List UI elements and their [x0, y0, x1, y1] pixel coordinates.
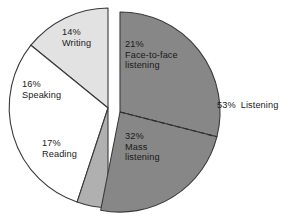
pie-label-speaking-pct: 16%: [22, 79, 61, 90]
pie-label-writing-name: Writing: [62, 38, 91, 49]
pie-label-face-to-face: 21% Face-to-face listening: [125, 39, 178, 71]
pie-label-reading-name: Reading: [42, 149, 77, 160]
pie-label-face-to-face-pct: 21%: [125, 39, 178, 50]
pie-label-reading-pct: 17%: [42, 138, 77, 149]
pie-callout-listening-name: Listening: [241, 100, 279, 110]
pie-label-mass-listening: 32% Mass listening: [125, 131, 160, 163]
pie-label-face-to-face-name2: listening: [125, 60, 178, 71]
pie-label-mass-listening-name2: listening: [125, 152, 160, 163]
pie-label-writing: 14% Writing: [62, 27, 91, 48]
pie-label-speaking-name: Speaking: [22, 90, 61, 101]
pie-label-face-to-face-name: Face-to-face: [125, 50, 178, 61]
pie-callout-listening-total: 53%Listening: [217, 100, 278, 111]
pie-callout-listening-pct: 53%: [217, 100, 236, 110]
pie-label-mass-listening-name: Mass: [125, 142, 160, 153]
pie-label-writing-pct: 14%: [62, 27, 91, 38]
pie-label-speaking: 16% Speaking: [22, 79, 61, 100]
pie-chart: 14% Writing 16% Speaking 17% Reading 21%…: [0, 0, 290, 220]
pie-label-mass-listening-pct: 32%: [125, 131, 160, 142]
pie-label-reading: 17% Reading: [42, 138, 77, 159]
